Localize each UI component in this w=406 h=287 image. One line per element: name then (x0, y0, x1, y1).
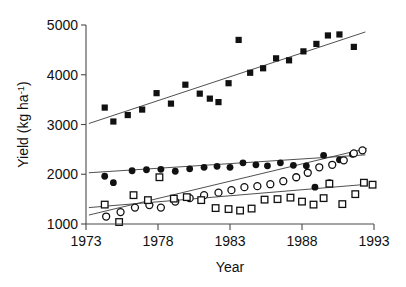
data-point-filled-squares (125, 112, 131, 118)
y-axis-tick-label: 5000 (47, 17, 78, 33)
data-point-filled-circles (110, 179, 117, 186)
data-point-filled-squares (236, 37, 242, 43)
data-point-open-circles (117, 209, 124, 216)
x-axis-tick-label: 1988 (286, 233, 317, 249)
data-point-filled-circles (277, 159, 284, 166)
data-point-filled-squares (260, 65, 266, 71)
data-point-filled-squares (225, 80, 231, 86)
data-point-open-squares (184, 194, 191, 201)
data-point-open-circles (103, 213, 110, 220)
data-point-open-circles (359, 147, 366, 154)
data-point-filled-squares (207, 96, 213, 102)
data-point-filled-squares (300, 48, 306, 54)
data-point-open-circles (304, 169, 311, 176)
data-point-open-squares (198, 197, 205, 204)
scatter-plot: 1000200030004000500019731978198319881993… (0, 0, 406, 287)
data-point-filled-squares (139, 106, 145, 112)
data-point-open-squares (212, 205, 219, 212)
x-axis-tick-label: 1973 (70, 233, 101, 249)
data-point-filled-squares (313, 41, 319, 47)
data-point-filled-squares (102, 104, 108, 110)
data-point-open-squares (225, 206, 232, 213)
data-point-filled-squares (215, 99, 221, 105)
data-point-open-squares (261, 196, 268, 203)
data-point-filled-squares (286, 57, 292, 63)
data-point-open-circles (316, 164, 323, 171)
data-point-open-circles (329, 161, 336, 168)
data-point-open-squares (352, 191, 359, 198)
data-point-open-squares (361, 179, 368, 186)
y-axis-tick-label: 3000 (47, 117, 78, 133)
data-point-filled-circles (172, 168, 179, 175)
data-point-open-circles (215, 189, 222, 196)
data-point-open-squares (130, 192, 137, 199)
data-point-filled-circles (290, 162, 297, 169)
data-point-filled-squares (325, 32, 331, 38)
data-point-filled-circles (312, 184, 319, 191)
data-point-group (101, 31, 376, 225)
data-point-filled-circles (101, 173, 108, 180)
axis-label-group: 1000200030004000500019731978198319881993… (15, 17, 390, 275)
data-point-open-circles (350, 150, 357, 157)
data-point-filled-squares (168, 101, 174, 107)
data-point-open-squares (299, 198, 306, 205)
data-point-open-circles (280, 178, 287, 185)
y-axis-tick-label: 2000 (47, 166, 78, 182)
data-point-filled-circles (129, 167, 136, 174)
data-point-open-squares (310, 201, 317, 208)
trend-line-filled-squares (89, 32, 365, 124)
data-point-filled-squares (273, 55, 279, 61)
y-axis-tick-label: 1000 (47, 216, 78, 232)
data-point-filled-circles (253, 161, 260, 168)
data-point-open-squares (248, 205, 255, 212)
data-point-open-squares (369, 181, 376, 188)
y-axis-tick-label: 4000 (47, 67, 78, 83)
data-point-open-circles (241, 184, 248, 191)
data-point-filled-circles (320, 152, 327, 159)
data-point-filled-circles (240, 159, 247, 166)
data-point-filled-squares (182, 82, 188, 88)
data-point-filled-squares (110, 118, 116, 124)
data-point-open-squares (274, 196, 281, 203)
data-point-open-circles (293, 174, 300, 181)
y-axis-title: Yield (kg ha-1) (15, 81, 31, 168)
axis-group (81, 25, 374, 230)
data-point-open-squares (287, 194, 294, 201)
data-point-filled-circles (201, 164, 208, 171)
data-point-filled-squares (247, 70, 253, 76)
chart-figure: 1000200030004000500019731978198319881993… (0, 0, 406, 287)
data-point-open-circles (131, 204, 138, 211)
data-point-open-squares (171, 195, 178, 202)
data-point-open-squares (326, 180, 333, 187)
data-point-open-squares (339, 201, 346, 208)
data-point-filled-squares (351, 44, 357, 50)
data-point-filled-squares (197, 91, 203, 97)
data-point-filled-circles (186, 165, 193, 172)
data-point-filled-circles (214, 163, 221, 170)
data-point-open-squares (145, 197, 152, 204)
data-point-open-circles (228, 187, 235, 194)
data-point-open-squares (237, 207, 244, 214)
data-point-open-squares (320, 195, 327, 202)
data-point-open-circles (254, 183, 261, 190)
data-point-filled-squares (153, 90, 159, 96)
data-point-filled-circles (264, 162, 271, 169)
data-point-filled-circles (157, 166, 164, 173)
data-point-filled-squares (336, 31, 342, 37)
data-point-open-circles (267, 181, 274, 188)
data-point-open-circles (157, 204, 164, 211)
data-point-filled-circles (227, 164, 234, 171)
x-axis-tick-label: 1993 (358, 233, 389, 249)
data-point-open-squares (156, 174, 163, 181)
x-axis-tick-label: 1978 (142, 233, 173, 249)
data-point-open-squares (101, 201, 108, 208)
x-axis-tick-label: 1983 (214, 233, 245, 249)
x-axis-title: Year (216, 259, 245, 275)
data-point-open-circles (340, 157, 347, 164)
data-point-filled-circles (303, 162, 310, 169)
data-point-filled-circles (143, 166, 150, 173)
